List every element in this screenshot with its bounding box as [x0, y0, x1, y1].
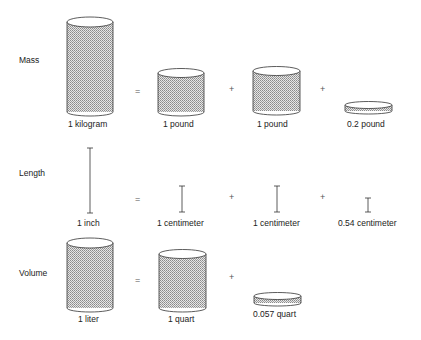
item-label: 1 pound — [257, 119, 288, 129]
operator-equals: = — [135, 275, 140, 285]
item-label: 0.2 pound — [347, 119, 385, 129]
cylinder-1-kilogram — [67, 17, 113, 116]
cylinder-1-pound-b — [253, 67, 300, 116]
item-label: 1 liter — [78, 314, 99, 324]
item-label: 1 centimeter — [157, 218, 204, 228]
cylinder-1-quart — [159, 250, 206, 312]
item-label: 0.057 quart — [253, 309, 296, 319]
diagram-canvas — [0, 0, 421, 340]
bar-1-centimeter-b — [274, 186, 280, 212]
row-label-mass: Mass — [19, 55, 39, 65]
operator-plus: + — [320, 84, 325, 94]
bar-1-centimeter-a — [179, 186, 185, 212]
disc-0.2-pound — [345, 102, 392, 115]
row-label-volume: Volume — [19, 268, 47, 278]
cylinder-1-liter — [67, 238, 113, 312]
operator-plus: + — [229, 272, 234, 282]
operator-plus: + — [320, 192, 325, 202]
bar-1-inch — [87, 148, 93, 213]
operator-equals: = — [135, 86, 140, 96]
disc-0.057-quart — [254, 293, 301, 307]
item-label: 1 pound — [163, 119, 194, 129]
operator-equals: = — [135, 194, 140, 204]
item-label: 1 quart — [168, 314, 194, 324]
operator-plus: + — [229, 84, 234, 94]
row-label-length: Length — [19, 168, 45, 178]
bar-0.54-centimeter — [365, 198, 371, 212]
item-label: 1 inch — [77, 218, 100, 228]
cylinder-1-pound-a — [158, 69, 204, 116]
item-label: 1 kilogram — [68, 119, 107, 129]
operator-plus: + — [229, 192, 234, 202]
item-label: 1 centimeter — [253, 218, 300, 228]
item-label: 0.54 centimeter — [338, 218, 397, 228]
